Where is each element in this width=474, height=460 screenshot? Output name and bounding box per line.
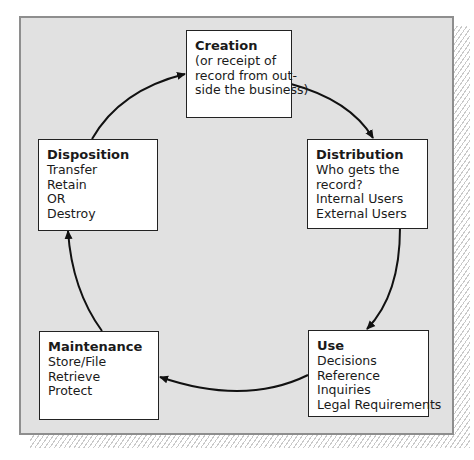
- stage-use: Use Decisions Reference Inquiries Legal …: [308, 330, 429, 417]
- stage-line: record?: [316, 178, 427, 193]
- stage-line: Decisions: [317, 354, 428, 369]
- stage-line: record from out-: [195, 69, 291, 84]
- stage-title: Use: [317, 338, 428, 354]
- stage-title: Creation: [195, 38, 291, 54]
- stage-title: Distribution: [316, 147, 427, 163]
- stage-title: Disposition: [47, 147, 157, 163]
- arrow-use-to-maintenance: [160, 375, 308, 391]
- stage-line: Reference: [317, 369, 428, 384]
- stage-line: Retrieve: [48, 370, 158, 385]
- stage-creation: Creation (or receipt of record from out-…: [186, 30, 292, 118]
- stage-line: Legal Requirements: [317, 398, 428, 413]
- stage-line: Store/File: [48, 355, 158, 370]
- stage-disposition: Disposition Transfer Retain OR Destroy: [38, 139, 158, 231]
- stage-line: Destroy: [47, 207, 157, 222]
- stage-line: side the business): [195, 83, 291, 98]
- stage-line: Protect: [48, 384, 158, 399]
- stage-line: Transfer: [47, 163, 157, 178]
- stage-line: Who gets the: [316, 163, 427, 178]
- arrow-distribution-to-use: [367, 228, 400, 329]
- stage-line: Inquiries: [317, 383, 428, 398]
- stage-line: Retain: [47, 178, 157, 193]
- stage-line: Internal Users: [316, 192, 427, 207]
- stage-distribution: Distribution Who gets the record? Intern…: [307, 139, 428, 229]
- stage-title: Maintenance: [48, 339, 158, 355]
- arrow-disposition-to-creation: [92, 74, 185, 139]
- arrow-maintenance-to-disposition: [68, 231, 102, 331]
- stage-line: (or receipt of: [195, 54, 291, 69]
- stage-maintenance: Maintenance Store/File Retrieve Protect: [39, 331, 159, 420]
- stage-line: External Users: [316, 207, 427, 222]
- stage-line: OR: [47, 192, 157, 207]
